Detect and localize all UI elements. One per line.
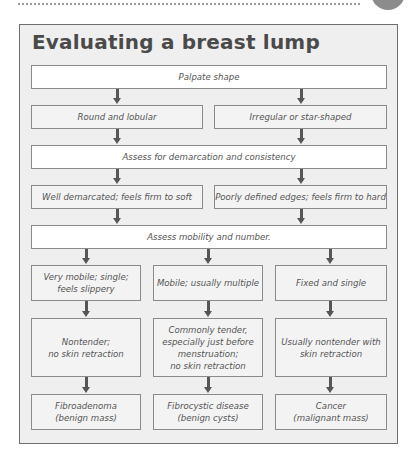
- demarcation-poor: Poorly defined edges; feels firm to hard: [214, 185, 387, 209]
- mobility-fixed-single: Fixed and single: [275, 265, 387, 301]
- step-label: Nontender; no skin retraction: [48, 336, 124, 360]
- step-label: Cancer (malignant mass): [293, 400, 368, 424]
- step-assess-mobility: Assess mobility and number.: [31, 225, 387, 249]
- step-label: Fibroadenoma (benign mass): [55, 400, 117, 424]
- step-label: Fibrocystic disease (benign cysts): [167, 400, 249, 424]
- step-label: Fixed and single: [296, 277, 366, 289]
- demarcation-well: Well demarcated; feels firm to soft: [31, 185, 203, 209]
- mobility-mobile-multiple: Mobile; usually multiple: [153, 265, 263, 301]
- mobility-very-mobile: Very mobile; single; feels slippery: [31, 265, 141, 301]
- tenderness-nontender: Nontender; no skin retraction: [31, 318, 141, 377]
- step-assess-demarcation: Assess for demarcation and consistency: [31, 145, 387, 169]
- outcome-cancer: Cancer (malignant mass): [275, 394, 387, 430]
- step-label: Assess mobility and number.: [147, 231, 271, 243]
- outcome-fibroadenoma: Fibroadenoma (benign mass): [31, 394, 141, 430]
- tenderness-usually-nontender: Usually nontender with skin retraction: [275, 318, 387, 377]
- shape-irregular: Irregular or star-shaped: [214, 105, 387, 129]
- figure-title: Evaluating a breast lump: [32, 30, 320, 54]
- step-label: Commonly tender, especially just before …: [162, 324, 254, 372]
- step-label: Palpate shape: [179, 71, 240, 83]
- step-label: Very mobile; single; feels slippery: [43, 271, 128, 295]
- tenderness-commonly-tender: Commonly tender, especially just before …: [153, 318, 263, 377]
- step-label: Poorly defined edges; feels firm to hard: [215, 191, 386, 203]
- step-label: Usually nontender with skin retraction: [281, 336, 381, 360]
- step-label: Assess for demarcation and consistency: [122, 151, 295, 163]
- page-corner-circle: [371, 0, 405, 10]
- step-label: Well demarcated; feels firm to soft: [42, 191, 192, 203]
- step-label: Irregular or star-shaped: [250, 111, 352, 123]
- step-palpate-shape: Palpate shape: [31, 65, 387, 89]
- dotted-divider: [18, 3, 360, 5]
- shape-round-lobular: Round and lobular: [31, 105, 203, 129]
- outcome-fibrocystic: Fibrocystic disease (benign cysts): [153, 394, 263, 430]
- step-label: Mobile; usually multiple: [157, 277, 259, 289]
- step-label: Round and lobular: [78, 111, 157, 123]
